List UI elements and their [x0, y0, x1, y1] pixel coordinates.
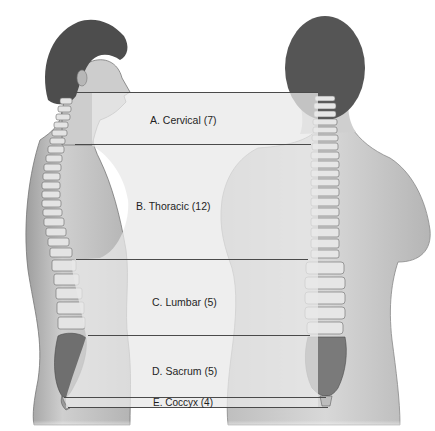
region-label-coccyx: E. Coccyx (4)	[153, 397, 213, 408]
region-label-sacrum: D. Sacrum (5)	[152, 365, 217, 377]
band-line-top-cervical	[74, 92, 318, 93]
region-label-lumbar: C. Lumbar (5)	[152, 296, 217, 308]
region-label-cervical: A. Cervical (7)	[150, 114, 217, 126]
band-line-thoracic-lumbar	[76, 259, 308, 260]
anatomy-illustration	[0, 0, 435, 431]
band-line-lumbar-sacrum	[88, 335, 310, 336]
spine-regions-diagram: A. Cervical (7) B. Thoracic (12) C. Lumb…	[0, 0, 435, 431]
region-label-thoracic: B. Thoracic (12)	[136, 200, 211, 212]
band-line-cervical-thoracic	[75, 144, 311, 145]
